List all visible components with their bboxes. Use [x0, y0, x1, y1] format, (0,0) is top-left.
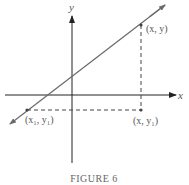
sloped-line: [10, 5, 165, 124]
x-axis-label: x: [177, 89, 183, 101]
y-axis-label: y: [68, 1, 74, 13]
sloped-line-upper-arrow: [150, 5, 165, 17]
point-label-x1-y1: (x₁, y₁): [25, 114, 54, 126]
point-label-x-y: (x, y): [146, 23, 168, 35]
figure-caption: FIGURE 6: [70, 173, 118, 184]
coordinate-diagram: x y (x, y) (x₁, y₁) (x, y₁) FIGURE 6: [0, 0, 189, 185]
point-x-y1: [139, 108, 142, 111]
point-label-x-y1: (x, y₁): [133, 115, 158, 127]
point-x-y: [139, 23, 142, 26]
point-x1-y1: [25, 108, 28, 111]
